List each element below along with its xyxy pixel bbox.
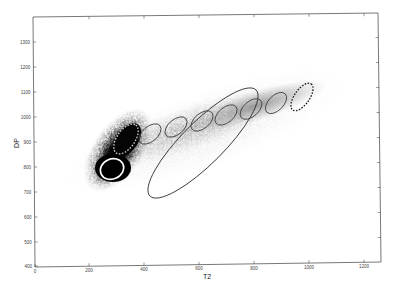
- x-tick-label: 600: [195, 266, 203, 271]
- x-tick-label: 1000: [304, 265, 315, 270]
- scatter-chart: 0 200 400 600 800 1000 1200 T2: [0, 0, 400, 287]
- y-tick-label: 900: [23, 140, 31, 145]
- y-tick-label: 600: [24, 215, 32, 220]
- y-axis-title: DP: [13, 138, 20, 148]
- y-tick-label: 1100: [21, 90, 31, 95]
- x-tick-label: 400: [140, 267, 148, 272]
- x-tick-label: 800: [250, 266, 258, 271]
- x-axis-title: T2: [203, 273, 211, 280]
- density-cloud: [51, 43, 359, 217]
- y-tick-label: 700: [24, 190, 32, 195]
- y-tick-label: 800: [24, 165, 32, 170]
- x-tick-label: 200: [85, 268, 93, 273]
- x-tick-label: 1200: [359, 264, 370, 269]
- x-tick-label: 0: [34, 269, 37, 274]
- y-tick-label: 1300: [20, 40, 31, 45]
- y-tick-label: 400: [24, 264, 32, 269]
- y-tick-label: 500: [24, 240, 32, 245]
- y-tick-label: 1000: [21, 115, 32, 120]
- y-tick-label: 1200: [20, 65, 31, 70]
